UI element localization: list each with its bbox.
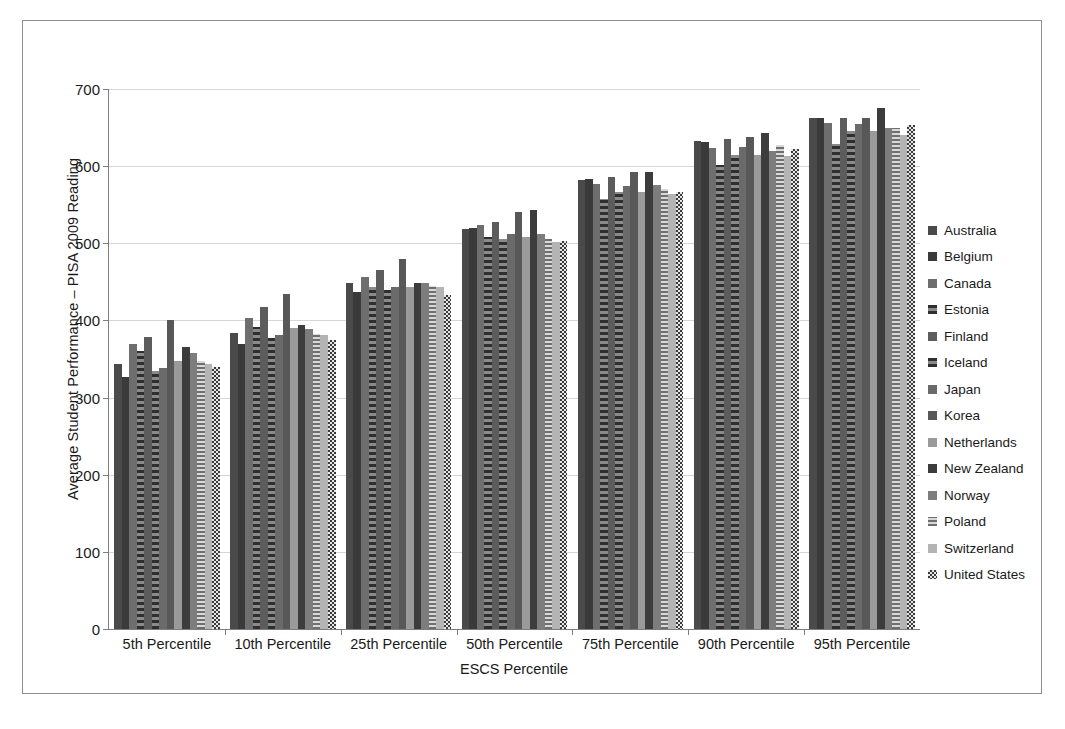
legend-item-estonia[interactable]: Estonia — [928, 297, 1040, 324]
bar-group: 95th Percentile — [804, 89, 920, 629]
bar — [436, 287, 444, 630]
bar — [144, 337, 152, 629]
bar-group: 10th Percentile — [225, 89, 341, 629]
bar — [429, 286, 437, 629]
bar — [885, 128, 893, 629]
x-tick-label: 10th Percentile — [234, 636, 331, 652]
x-tick-mark — [804, 629, 805, 635]
bar — [694, 141, 702, 629]
bar — [645, 172, 653, 629]
bar — [661, 189, 669, 629]
legend-item-australia[interactable]: Australia — [928, 217, 1040, 244]
bar — [283, 294, 291, 629]
bar — [174, 361, 182, 629]
bars — [230, 89, 335, 629]
bar — [230, 333, 238, 629]
bar — [847, 131, 855, 629]
bar — [892, 128, 900, 629]
legend-label: Norway — [944, 489, 990, 503]
legend-swatch-icon — [928, 517, 937, 526]
bar — [421, 283, 429, 629]
bar — [809, 118, 817, 629]
bar — [212, 367, 220, 629]
bar — [152, 371, 160, 629]
legend-swatch-icon — [928, 332, 937, 341]
x-tick-mark — [572, 629, 573, 635]
legend-swatch-icon — [928, 385, 937, 394]
legend-item-finland[interactable]: Finland — [928, 323, 1040, 350]
bar — [615, 192, 623, 629]
bar — [238, 344, 246, 629]
legend-item-united-states[interactable]: United States — [928, 562, 1040, 589]
bar — [114, 364, 122, 629]
x-tick-label: 5th Percentile — [123, 636, 212, 652]
bar — [275, 335, 283, 629]
bar — [578, 180, 586, 629]
bars — [114, 89, 219, 629]
legend-swatch-icon — [928, 411, 937, 420]
legend-item-poland[interactable]: Poland — [928, 509, 1040, 536]
y-tick-label: 0 — [92, 621, 100, 638]
bar — [137, 351, 145, 629]
bar — [268, 338, 276, 629]
bar-groups: 5th Percentile10th Percentile25th Percen… — [109, 89, 920, 629]
y-tick-label: 600 — [75, 158, 100, 175]
bar — [709, 148, 717, 629]
y-tick-label: 300 — [75, 389, 100, 406]
legend-item-norway[interactable]: Norway — [928, 482, 1040, 509]
legend-item-iceland[interactable]: Iceland — [928, 350, 1040, 377]
bar — [739, 147, 747, 629]
bar — [668, 194, 676, 629]
x-tick-label: 90th Percentile — [698, 636, 795, 652]
y-tick-label: 400 — [75, 312, 100, 329]
legend-label: Switzerland — [944, 542, 1014, 556]
bar — [414, 283, 422, 629]
bar — [305, 329, 313, 629]
x-tick-mark — [341, 629, 342, 635]
legend-item-korea[interactable]: Korea — [928, 403, 1040, 430]
legend-swatch-icon — [928, 438, 937, 447]
bar — [260, 307, 268, 629]
bar — [552, 242, 560, 629]
bar — [560, 241, 568, 629]
bar-group: 25th Percentile — [341, 89, 457, 629]
bar — [784, 156, 792, 629]
bar — [761, 133, 769, 629]
y-tick-label: 100 — [75, 543, 100, 560]
bar — [716, 165, 724, 629]
figure-frame: Average Student Performance – PISA 2009 … — [22, 20, 1042, 694]
bar — [353, 292, 361, 629]
legend-item-switzerland[interactable]: Switzerland — [928, 535, 1040, 562]
bar — [369, 287, 377, 630]
bar — [653, 185, 661, 629]
bar — [769, 151, 777, 629]
legend-item-japan[interactable]: Japan — [928, 376, 1040, 403]
bar — [776, 145, 784, 629]
bar — [701, 142, 709, 629]
bar — [676, 192, 684, 629]
x-tick-label: 95th Percentile — [814, 636, 911, 652]
legend-swatch-icon — [928, 544, 937, 553]
bar — [870, 131, 878, 629]
bar — [537, 234, 545, 629]
bar — [638, 192, 646, 629]
legend-item-new-zealand[interactable]: New Zealand — [928, 456, 1040, 483]
x-tick-label: 75th Percentile — [582, 636, 679, 652]
bar — [515, 212, 523, 629]
legend-item-belgium[interactable]: Belgium — [928, 244, 1040, 271]
legend-label: Korea — [944, 409, 980, 423]
bar — [469, 228, 477, 629]
y-tick-label: 700 — [75, 81, 100, 98]
legend-swatch-icon — [928, 570, 937, 579]
bar — [593, 184, 601, 629]
bar — [346, 283, 354, 629]
x-tick-label: 25th Percentile — [350, 636, 447, 652]
bar — [384, 290, 392, 629]
bar — [399, 259, 407, 629]
bars — [462, 89, 567, 629]
bar — [492, 222, 500, 629]
bar — [832, 144, 840, 629]
legend-item-canada[interactable]: Canada — [928, 270, 1040, 297]
legend-item-netherlands[interactable]: Netherlands — [928, 429, 1040, 456]
bar — [840, 118, 848, 629]
